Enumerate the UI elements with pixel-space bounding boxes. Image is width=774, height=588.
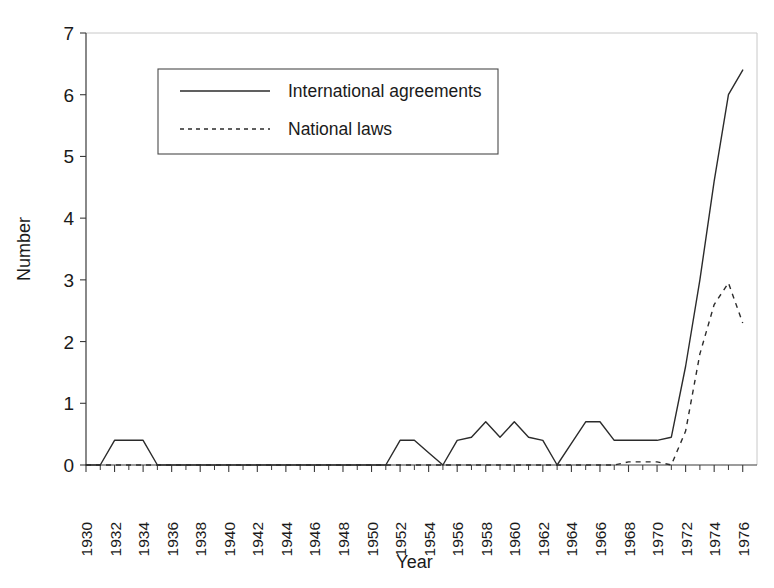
- y-axis-tick-label: 2: [63, 332, 74, 353]
- x-axis-tick-label: 1960: [506, 522, 523, 557]
- line-chart: 0123456719301932193419361938194019421944…: [0, 0, 774, 588]
- y-axis-title: Number: [14, 217, 34, 281]
- x-axis-tick-label: 1958: [478, 522, 495, 556]
- x-axis-tick-label: 1974: [706, 522, 723, 557]
- legend-label-2: National laws: [288, 119, 392, 139]
- y-axis-tick-label: 4: [63, 208, 74, 229]
- x-axis-tick-label: 1944: [278, 522, 295, 557]
- x-axis-tick-label: 1936: [164, 522, 181, 556]
- x-axis-tick-label: 1972: [678, 522, 695, 556]
- x-axis-tick-label: 1940: [221, 522, 238, 557]
- y-axis-tick-label: 0: [63, 455, 74, 476]
- y-axis-tick-label: 7: [63, 23, 74, 44]
- x-axis-title: Year: [396, 552, 432, 572]
- x-axis-tick-label: 1930: [78, 522, 95, 557]
- y-axis-tick-label: 5: [63, 146, 74, 167]
- x-axis-tick-label: 1964: [563, 522, 580, 557]
- x-axis-tick-label: 1948: [335, 522, 352, 556]
- series-line-2: [86, 283, 743, 465]
- chart-canvas: 0123456719301932193419361938194019421944…: [0, 0, 774, 588]
- x-axis-tick-label: 1950: [364, 522, 381, 557]
- x-axis-tick-label: 1938: [192, 522, 209, 556]
- y-axis-tick-label: 3: [63, 270, 74, 291]
- x-axis-tick-label: 1968: [621, 522, 638, 556]
- legend-label-1: International agreements: [288, 81, 482, 101]
- x-axis-tick-label: 1932: [107, 522, 124, 556]
- x-axis-tick-label: 1976: [735, 522, 752, 556]
- x-axis-tick-label: 1966: [592, 522, 609, 556]
- x-axis-tick-label: 1946: [306, 522, 323, 556]
- x-axis-tick-label: 1942: [249, 522, 266, 556]
- x-axis-tick-label: 1934: [135, 522, 152, 557]
- y-axis-tick-label: 1: [63, 393, 74, 414]
- x-axis-tick-label: 1962: [535, 522, 552, 556]
- x-axis-tick-label: 1970: [649, 522, 666, 557]
- x-axis-tick-label: 1956: [449, 522, 466, 556]
- y-axis-tick-label: 6: [63, 85, 74, 106]
